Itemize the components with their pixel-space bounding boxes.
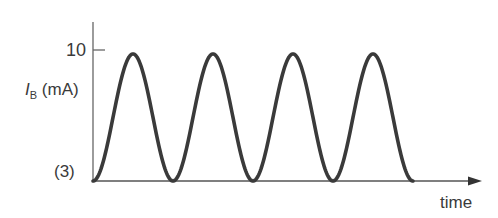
x-axis-label: time xyxy=(440,194,472,211)
baseline-marker-label: (3) xyxy=(54,163,75,180)
chart-plot xyxy=(0,0,498,218)
current-waveform xyxy=(93,54,413,181)
x-axis-arrow-icon xyxy=(468,177,482,186)
y-axis-label: IB (mA) xyxy=(25,81,79,98)
y-axis-unit: (mA) xyxy=(42,80,79,99)
y-tick-label-10: 10 xyxy=(66,41,86,59)
y-axis-subscript: B xyxy=(30,89,37,101)
